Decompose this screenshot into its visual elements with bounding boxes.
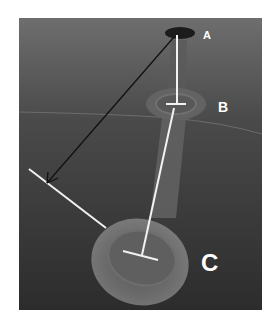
label-b: B — [218, 99, 228, 115]
spot-a — [165, 27, 195, 39]
label-a: A — [203, 29, 211, 41]
annotated-photo: A B C — [19, 18, 262, 310]
label-c: C — [201, 249, 218, 276]
